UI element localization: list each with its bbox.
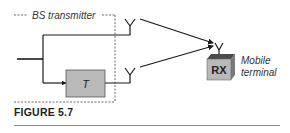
propagation-arrow-2: [140, 46, 213, 67]
delayed-path: [105, 75, 130, 83]
mobile-terminal-label-line1: Mobile: [241, 55, 271, 66]
upper-path: [43, 26, 130, 35]
figure-caption: FIGURE 5.7: [14, 106, 73, 118]
mobile-terminal-label-line2: terminal: [241, 67, 277, 78]
antenna-icon: [125, 19, 135, 26]
rx-label: RX: [211, 64, 227, 76]
caption-rule: [14, 125, 280, 126]
antenna-icon: [125, 68, 135, 75]
bs-transmitter-label: BS transmitter: [32, 10, 96, 21]
propagation-arrow-1: [140, 19, 213, 43]
